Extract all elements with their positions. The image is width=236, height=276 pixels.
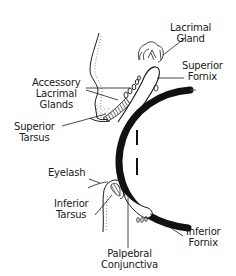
label-line: Tarsus xyxy=(54,209,88,220)
label-palpebral-conjunctiva: Palpebral Conjunctiva xyxy=(101,248,158,270)
label-line: Accessory xyxy=(32,77,81,88)
label-line: Gland xyxy=(170,33,211,44)
label-line: Fornix xyxy=(186,237,220,248)
label-line: Fornix xyxy=(182,71,223,82)
lower-eyelid xyxy=(88,180,152,232)
label-line: Conjunctiva xyxy=(101,259,158,270)
eye-anatomy-diagram: Lacrimal Gland Superior Fornix Accessory… xyxy=(0,0,236,276)
lacrimal-gland-shape xyxy=(138,42,163,62)
label-lacrimal-gland: Lacrimal Gland xyxy=(170,22,211,44)
label-inferior-fornix: Inferior Fornix xyxy=(186,226,220,248)
label-accessory-lacrimal-glands: Accessory Lacrimal Glands xyxy=(32,77,81,110)
label-superior-tarsus: Superior Tarsus xyxy=(14,121,55,143)
label-line: Palpebral xyxy=(101,248,158,259)
label-line: Inferior xyxy=(186,226,220,237)
label-line: Glands xyxy=(32,99,81,110)
label-line: Superior xyxy=(14,121,55,132)
label-line: Lacrimal xyxy=(32,88,81,99)
label-line: Tarsus xyxy=(14,132,55,143)
label-line: Superior xyxy=(182,60,223,71)
label-inferior-tarsus: Inferior Tarsus xyxy=(54,198,88,220)
label-eyelash: Eyelash xyxy=(48,167,85,178)
inferior-tarsus-shape xyxy=(111,183,120,196)
label-line: Eyelash xyxy=(48,167,85,178)
label-superior-fornix: Superior Fornix xyxy=(182,60,223,82)
label-line: Lacrimal xyxy=(170,22,211,33)
label-line: Inferior xyxy=(54,198,88,209)
